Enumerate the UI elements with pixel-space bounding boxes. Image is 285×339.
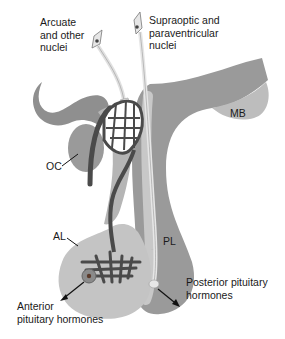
hypothalamus-left-wall — [33, 82, 109, 126]
supraoptic-nucleus-dot — [135, 25, 139, 29]
anterior-hormones-label: Anterior pituitary hormones — [17, 300, 103, 325]
arcuate-neuron — [92, 30, 102, 48]
anterior-lobe-label: AL — [53, 230, 66, 243]
mammillary-body-label: MB — [230, 107, 246, 120]
arcuate-nucleus-dot — [95, 39, 99, 43]
posterior-hormones-label: Posterior pituitary hormones — [186, 276, 268, 301]
arcuate-nuclei-label: Arcuate and other nuclei — [40, 16, 84, 54]
supraoptic-nuclei-label: Supraoptic and paraventricular nuclei — [149, 14, 220, 52]
al-leader — [67, 238, 78, 246]
arcuate-axon — [98, 46, 124, 100]
posterior-lobe-label: PL — [163, 235, 176, 248]
supraoptic-neuron — [134, 12, 142, 34]
optic-chiasm-label: OC — [46, 160, 62, 173]
anterior-cell-nucleus — [87, 274, 91, 278]
supraoptic-terminal — [149, 280, 159, 288]
